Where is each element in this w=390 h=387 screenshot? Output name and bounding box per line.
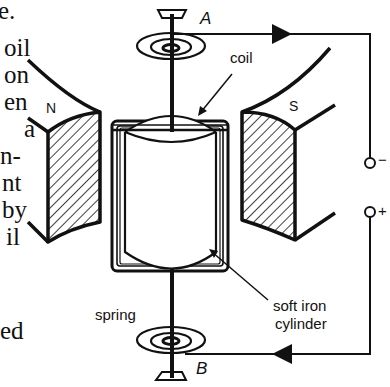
south-pole-label: S <box>289 99 298 113</box>
current-arrow-bottom <box>272 344 292 364</box>
spring-label: spring <box>95 307 136 322</box>
coil-leader <box>201 74 232 112</box>
soft-iron-label-line1: soft iron <box>273 298 326 313</box>
soft-iron-cylinder <box>125 116 216 269</box>
positive-terminal <box>365 207 375 217</box>
terminal-b-label: B <box>196 360 207 377</box>
positive-terminal-label: + <box>378 203 387 218</box>
coil-label: coil <box>230 50 253 65</box>
galvanometer-diagram <box>0 0 390 387</box>
negative-terminal-label: − <box>378 152 387 167</box>
north-pole-label: N <box>46 101 56 115</box>
negative-terminal <box>365 158 375 168</box>
terminal-a-label: A <box>200 10 211 27</box>
cylinder-leader <box>212 252 268 300</box>
current-arrow-top <box>272 24 292 44</box>
soft-iron-label-line2: cylinder <box>275 316 327 331</box>
north-magnet-pole <box>28 60 100 242</box>
south-magnet-pole <box>242 48 335 240</box>
